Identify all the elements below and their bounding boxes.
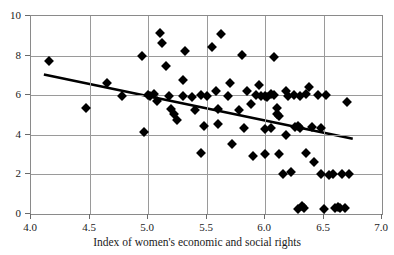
x-axis-tick-mark: [89, 214, 90, 219]
x-axis-tick-label: 5.0: [127, 221, 167, 233]
x-axis-tick-mark: [30, 214, 31, 219]
x-axis-label: Index of women's economic and social rig…: [0, 236, 394, 248]
x-axis-tick-label: 4.5: [69, 221, 109, 233]
x-axis-tick-mark: [264, 214, 265, 219]
x-axis-tick-label: 6.0: [244, 221, 284, 233]
y-axis-tick-label: 0: [0, 207, 21, 219]
y-axis-tick-mark: [25, 15, 30, 16]
x-axis-tick-label: 6.5: [303, 221, 343, 233]
x-axis-tick-label: 7.0: [361, 221, 394, 233]
y-axis-tick-mark: [25, 134, 30, 135]
x-axis-tick-mark: [147, 214, 148, 219]
gridline-vertical: [324, 16, 325, 214]
x-axis-tick-mark: [206, 214, 207, 219]
y-axis-tick-label: 2: [0, 167, 21, 179]
x-axis-tick-label: 4.0: [10, 221, 50, 233]
x-axis-tick-mark: [381, 214, 382, 219]
y-axis-tick-label: 8: [0, 49, 21, 61]
gridline-vertical: [90, 16, 91, 214]
gridline-vertical: [265, 16, 266, 214]
plot-area: [30, 15, 383, 215]
y-axis-tick-mark: [25, 173, 30, 174]
y-axis-tick-mark: [25, 55, 30, 56]
y-axis-tick-label: 4: [0, 128, 21, 140]
y-axis-tick-mark: [25, 94, 30, 95]
y-axis-label-partial: [14, 0, 94, 8]
gridline-vertical: [148, 16, 149, 214]
x-axis-tick-label: 5.5: [186, 221, 226, 233]
scatter-plot-figure: 02468104.04.55.05.56.06.57.0 Index of wo…: [0, 0, 394, 255]
x-axis-tick-mark: [323, 214, 324, 219]
y-axis-tick-label: 10: [0, 9, 21, 21]
y-axis-tick-label: 6: [0, 88, 21, 100]
